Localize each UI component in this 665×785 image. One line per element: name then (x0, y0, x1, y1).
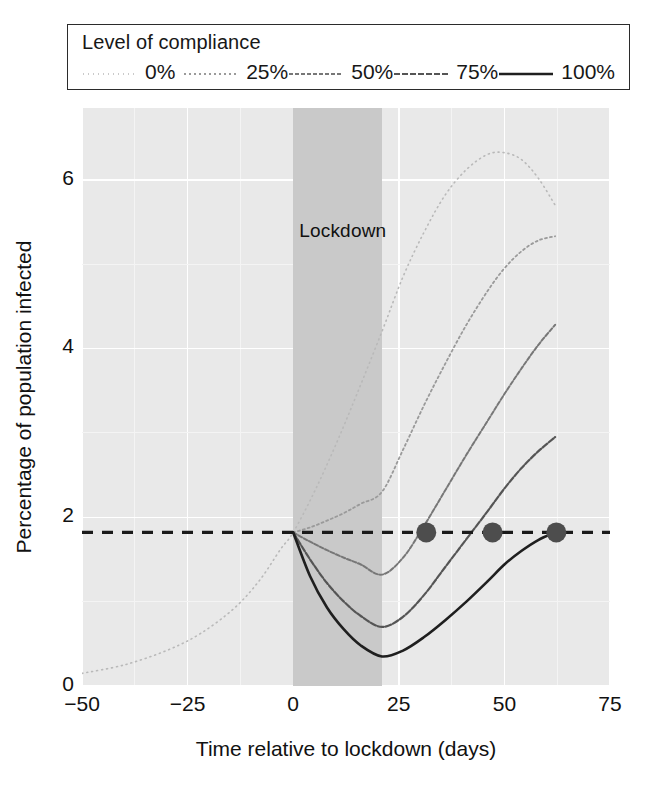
x-axis-tick-label: 25 (359, 692, 439, 716)
legend-line-swatch-icon (393, 66, 449, 78)
legend-item-label: 50% (351, 60, 393, 84)
series-line-25pct (293, 236, 555, 532)
threshold-crossing-marker[interactable] (416, 522, 436, 542)
legend-item-100pct[interactable]: 100% (498, 60, 615, 84)
x-axis-label: Time relative to lockdown (days) (82, 737, 610, 761)
y-axis-label-holder: Percentage of population infected (18, 108, 44, 686)
legend: Level of compliance 0%25%50%75%100% (67, 24, 630, 90)
legend-item-25pct[interactable]: 25% (183, 60, 288, 84)
y-axis-tick-label: 2 (50, 503, 74, 527)
legend-item-label: 25% (246, 60, 288, 84)
legend-item-0pct[interactable]: 0% (82, 60, 183, 84)
legend-line-swatch-icon (183, 66, 239, 78)
x-axis-tick-label: −50 (42, 692, 122, 716)
legend-items: 0%25%50%75%100% (82, 57, 615, 87)
threshold-crossing-marker[interactable] (546, 522, 566, 542)
legend-item-50pct[interactable]: 50% (288, 60, 393, 84)
plot-panel: Lockdown (82, 108, 610, 686)
threshold-crossing-marker[interactable] (483, 522, 503, 542)
x-axis-tick-label: 50 (464, 692, 544, 716)
chart-figure: Level of compliance 0%25%50%75%100% Lock… (0, 0, 665, 785)
series-curves (82, 108, 610, 686)
y-axis-tick-label: 4 (50, 334, 74, 358)
x-axis-tick-label: 0 (253, 692, 333, 716)
y-axis-tick-label: 6 (50, 166, 74, 190)
legend-line-swatch-icon (288, 66, 344, 78)
legend-item-label: 0% (145, 60, 175, 84)
legend-item-label: 75% (456, 60, 498, 84)
y-axis-label: Percentage of population infected (12, 108, 36, 686)
legend-title: Level of compliance (82, 30, 615, 55)
x-axis-tick-label: −25 (148, 692, 228, 716)
legend-item-label: 100% (561, 60, 615, 84)
legend-line-swatch-icon (82, 66, 138, 78)
legend-line-swatch-icon (498, 66, 554, 78)
legend-item-75pct[interactable]: 75% (393, 60, 498, 84)
plot-area: Lockdown (82, 108, 610, 686)
x-axis-tick-label: 75 (570, 692, 650, 716)
